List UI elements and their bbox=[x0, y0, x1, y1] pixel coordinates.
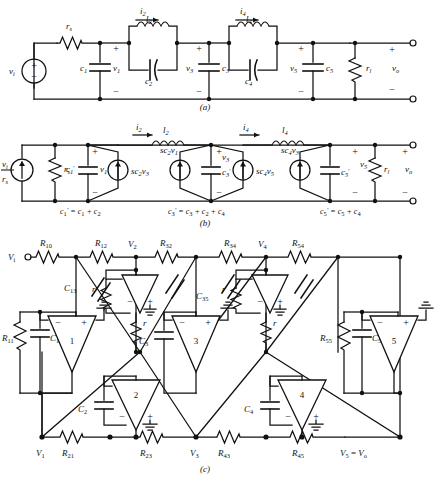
panel-c-caption: (c) bbox=[200, 464, 210, 474]
svg-text:r: r bbox=[143, 318, 147, 328]
circuit-figure: + − vi i2 bbox=[0, 0, 441, 489]
svg-text:R32: R32 bbox=[159, 238, 172, 249]
svg-text:V4: V4 bbox=[258, 239, 268, 250]
svg-text:−: − bbox=[352, 187, 358, 198]
svg-text:−: − bbox=[377, 317, 383, 328]
svg-text:V5 = Vo: V5 = Vo bbox=[340, 448, 367, 459]
capacitor-c31 bbox=[166, 275, 184, 298]
svg-text:sc4v3: sc4v3 bbox=[281, 145, 299, 156]
panel-a-caption: (a) bbox=[200, 102, 211, 112]
svg-text:+: + bbox=[196, 43, 202, 54]
svg-text:v3: v3 bbox=[186, 63, 193, 74]
svg-text:vo: vo bbox=[392, 63, 399, 74]
svg-text:R34: R34 bbox=[223, 238, 237, 249]
svg-text:−: − bbox=[127, 296, 133, 307]
svg-text:l4: l4 bbox=[282, 125, 289, 136]
svg-text:V1: V1 bbox=[36, 448, 45, 459]
svg-text:−: − bbox=[298, 86, 304, 97]
panel-c: R10 R12 R32 R34 R54 Vi V2 V4 V1 R21 R23 … bbox=[1, 238, 433, 474]
opamp-1: − + 1 R11 C1 bbox=[1, 302, 111, 437]
svg-text:+: + bbox=[298, 43, 304, 54]
svg-text:5: 5 bbox=[392, 336, 397, 346]
svg-text:−: − bbox=[55, 317, 61, 328]
svg-text:+: + bbox=[113, 43, 119, 54]
equation-c1-prime: c1′ = c1 + c2 bbox=[60, 206, 101, 217]
svg-text:l2: l2 bbox=[146, 14, 153, 25]
svg-text:c5′: c5′ bbox=[341, 167, 350, 178]
svg-text:−: − bbox=[285, 411, 291, 422]
svg-text:v5: v5 bbox=[290, 63, 297, 74]
svg-text:−: − bbox=[389, 84, 395, 95]
equation-c5-prime: c5′ = c5 + c4 bbox=[320, 206, 361, 217]
opamp-2: − + 2 C2 bbox=[78, 376, 160, 440]
svg-text:c4: c4 bbox=[245, 76, 253, 87]
svg-text:r: r bbox=[92, 284, 96, 294]
svg-text:2: 2 bbox=[134, 390, 139, 400]
svg-text:3: 3 bbox=[194, 336, 199, 346]
svg-text:V2: V2 bbox=[128, 239, 137, 250]
svg-text:C2: C2 bbox=[78, 404, 87, 415]
svg-text:c1′: c1′ bbox=[66, 164, 75, 175]
svg-text:R55: R55 bbox=[319, 333, 332, 344]
svg-text:R54: R54 bbox=[291, 238, 305, 249]
svg-text:sc2v1: sc2v1 bbox=[160, 145, 178, 156]
svg-text:+: + bbox=[402, 146, 408, 157]
equation-c3-prime: c3′ = c3 + c2 + c4 bbox=[168, 206, 226, 217]
svg-text:vi: vi bbox=[2, 159, 8, 170]
panel-b: vi rs rs c1′ v1 + − sc2v3 bbox=[1, 122, 416, 228]
svg-text:+: + bbox=[389, 44, 395, 55]
svg-text:rs: rs bbox=[2, 174, 9, 185]
opamp-5: − + 5 R55 C5 bbox=[319, 302, 433, 395]
svg-text:R21: R21 bbox=[61, 448, 74, 459]
svg-text:v1: v1 bbox=[100, 164, 107, 175]
svg-text:v3: v3 bbox=[222, 152, 229, 163]
svg-text:V3: V3 bbox=[190, 448, 199, 459]
svg-text:r: r bbox=[222, 284, 226, 294]
svg-text:vi: vi bbox=[9, 66, 15, 77]
svg-text:R11: R11 bbox=[1, 333, 14, 344]
svg-text:+: + bbox=[403, 317, 409, 328]
svg-text:C35: C35 bbox=[196, 291, 208, 302]
svg-text:c3: c3 bbox=[222, 63, 229, 74]
svg-text:rl: rl bbox=[384, 164, 390, 175]
svg-text:−: − bbox=[119, 411, 125, 422]
panel-b-caption: (b) bbox=[200, 218, 211, 228]
svg-text:C4: C4 bbox=[244, 404, 254, 415]
svg-text:c3′: c3′ bbox=[222, 167, 231, 178]
svg-text:l4: l4 bbox=[246, 14, 253, 25]
svg-text:v1: v1 bbox=[113, 63, 120, 74]
svg-text:4: 4 bbox=[300, 390, 305, 400]
svg-text:i4: i4 bbox=[243, 122, 250, 133]
opamp-4: − + 4 C4 bbox=[244, 376, 326, 440]
svg-text:c5: c5 bbox=[326, 63, 333, 74]
svg-text:+: + bbox=[352, 146, 358, 157]
panel-a: + − vi i2 bbox=[9, 6, 416, 112]
svg-text:−: − bbox=[31, 71, 37, 82]
svg-text:sc2v3: sc2v3 bbox=[131, 166, 149, 177]
svg-text:rl: rl bbox=[366, 63, 372, 74]
svg-text:R45: R45 bbox=[291, 448, 304, 459]
svg-text:R43: R43 bbox=[217, 448, 230, 459]
figure-canvas: + − vi i2 bbox=[0, 0, 441, 489]
svg-text:1: 1 bbox=[70, 336, 75, 346]
svg-text:Vi: Vi bbox=[8, 252, 16, 263]
svg-text:rs: rs bbox=[66, 21, 73, 32]
svg-text:−: − bbox=[257, 296, 263, 307]
svg-text:+: + bbox=[31, 60, 37, 71]
svg-text:+: + bbox=[205, 317, 211, 328]
svg-text:c1: c1 bbox=[80, 63, 87, 74]
svg-text:C13: C13 bbox=[64, 283, 76, 294]
svg-text:l2: l2 bbox=[163, 125, 170, 136]
svg-text:−: − bbox=[402, 187, 408, 198]
svg-text:R12: R12 bbox=[94, 238, 107, 249]
svg-text:R23: R23 bbox=[139, 448, 152, 459]
svg-text:−: − bbox=[113, 86, 119, 97]
inverter-at-v4: − + r r bbox=[222, 268, 288, 354]
svg-text:c2: c2 bbox=[145, 76, 153, 87]
svg-text:i2: i2 bbox=[136, 122, 143, 133]
svg-text:+: + bbox=[81, 317, 87, 328]
svg-text:R10: R10 bbox=[39, 238, 52, 249]
svg-text:r: r bbox=[273, 318, 277, 328]
svg-text:v5: v5 bbox=[360, 159, 367, 170]
svg-text:−: − bbox=[196, 86, 202, 97]
